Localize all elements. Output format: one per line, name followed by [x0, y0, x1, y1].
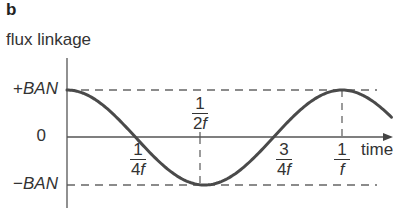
x-axis-label: time — [361, 140, 393, 160]
tick-numerator: 1 — [192, 96, 208, 114]
tick-numerator: 1 — [334, 142, 350, 160]
x-tick-half-period: 1 2f — [185, 96, 215, 132]
x-tick-quarter-period: 1 4f — [123, 142, 153, 178]
tick-denominator: f — [327, 160, 357, 178]
x-tick-full-period: 1 f — [327, 142, 357, 178]
x-tick-three-quarter-period: 3 4f — [269, 142, 299, 178]
tick-denominator: 4f — [269, 160, 299, 178]
tick-denominator: 4f — [123, 160, 153, 178]
tick-numerator: 3 — [276, 142, 292, 160]
tick-numerator: 1 — [130, 142, 146, 160]
tick-denominator: 2f — [185, 114, 215, 132]
